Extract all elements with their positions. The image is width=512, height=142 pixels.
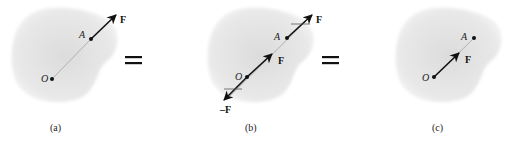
equals-sign-2 bbox=[322, 56, 339, 64]
equals-sign-1 bbox=[125, 56, 142, 64]
point-o-dot bbox=[50, 77, 54, 81]
point-o-dot bbox=[432, 75, 436, 79]
panel-a: O A F (a) bbox=[12, 8, 127, 134]
panel-b: O A F F –F (b) bbox=[208, 8, 323, 134]
point-a-dot bbox=[285, 36, 289, 40]
caption-a: (a) bbox=[50, 122, 61, 134]
point-a-dot bbox=[472, 36, 476, 40]
caption-b: (b) bbox=[245, 122, 257, 134]
force-equivalence-diagram: O A F (a) O A F F –F (b) bbox=[0, 0, 512, 142]
caption-c: (c) bbox=[432, 122, 443, 134]
point-o-dot bbox=[245, 75, 249, 79]
force-label: F bbox=[120, 14, 126, 25]
point-o-label: O bbox=[235, 71, 242, 82]
point-o-label: O bbox=[41, 73, 48, 84]
point-a-label: A bbox=[460, 31, 468, 42]
rigid-body bbox=[396, 8, 502, 103]
rigid-body bbox=[12, 8, 118, 103]
panel-c: O A F (c) bbox=[396, 8, 502, 134]
point-o-label: O bbox=[422, 72, 429, 83]
point-a-label: A bbox=[78, 29, 86, 40]
point-a-label: A bbox=[273, 31, 281, 42]
force-label-neg: –F bbox=[219, 104, 231, 115]
force-label: F bbox=[465, 54, 471, 65]
point-a-dot bbox=[89, 37, 93, 41]
force-label-top: F bbox=[316, 14, 322, 25]
rigid-body bbox=[208, 8, 314, 103]
force-label-mid: F bbox=[278, 55, 284, 66]
